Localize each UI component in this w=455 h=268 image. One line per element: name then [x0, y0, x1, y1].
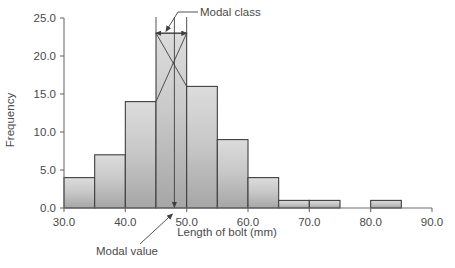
modal-value-annotation-label: Modal value: [96, 245, 158, 257]
bars-group: [64, 33, 401, 208]
histogram-bar: [309, 200, 340, 208]
x-tick-label: 90.0: [421, 216, 443, 228]
y-tick-label: 0.0: [40, 202, 56, 214]
histogram-bar: [248, 178, 279, 208]
histogram-bar: [217, 140, 248, 208]
histogram-bar: [125, 102, 156, 208]
histogram-bar: [187, 86, 218, 208]
y-tick-label: 5.0: [40, 164, 56, 176]
chart-canvas: 0.05.010.015.020.025.030.040.050.060.070…: [0, 0, 455, 268]
histogram-bar: [371, 200, 402, 208]
x-tick-label: 70.0: [298, 216, 320, 228]
modal-class-annotation-label: Modal class: [200, 6, 261, 18]
y-tick-label: 25.0: [34, 12, 56, 24]
histogram-bar: [95, 155, 126, 208]
x-tick-label: 40.0: [114, 216, 136, 228]
y-tick-label: 10.0: [34, 126, 56, 138]
histogram-bar: [64, 178, 95, 208]
modal-value-leader: [140, 214, 172, 244]
modal-class-leader-arrow: [166, 12, 178, 31]
x-tick-label: 80.0: [359, 216, 381, 228]
x-tick-label: 30.0: [53, 216, 75, 228]
histogram-chart: 0.05.010.015.020.025.030.040.050.060.070…: [0, 0, 455, 268]
y-tick-label: 15.0: [34, 88, 56, 100]
x-axis-title: Length of bolt (mm): [177, 226, 277, 238]
y-tick-label: 20.0: [34, 50, 56, 62]
y-axis-title: Frequency: [4, 93, 16, 148]
histogram-bar: [279, 200, 310, 208]
